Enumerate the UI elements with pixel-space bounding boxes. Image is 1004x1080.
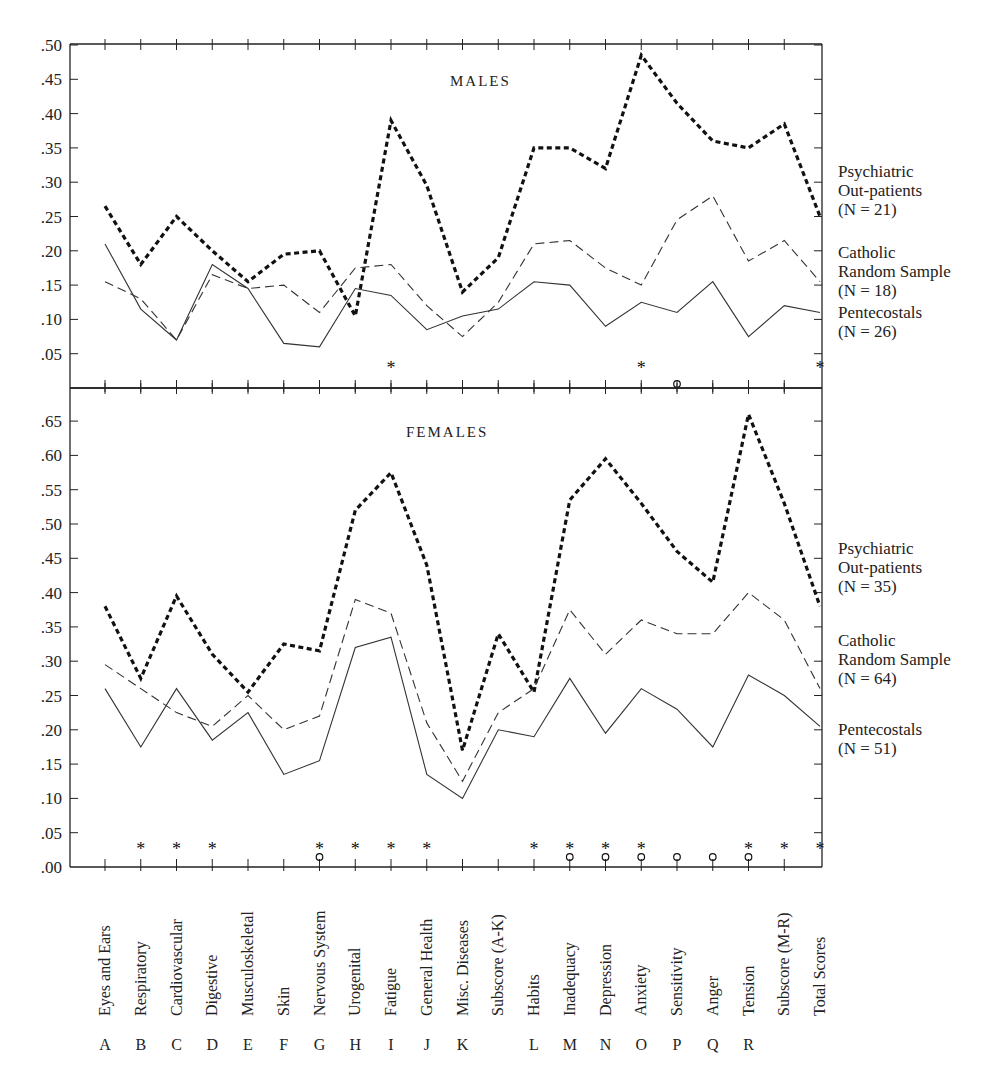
legend-n: (N = 51)	[838, 739, 897, 758]
category-label: Anger	[704, 975, 722, 1016]
significance-asterisk: *	[780, 839, 789, 859]
y-tick-label: .20	[41, 721, 62, 740]
category-letter: L	[529, 1036, 539, 1053]
category-letter: N	[600, 1036, 612, 1053]
y-tick-label: .15	[41, 755, 62, 774]
category-letter: E	[243, 1036, 253, 1053]
category-letter: C	[171, 1036, 182, 1053]
category-label: General Health	[418, 919, 435, 1016]
category-letter: O	[635, 1036, 647, 1053]
significance-asterisk: *	[816, 358, 825, 378]
category-label: Respiratory	[132, 941, 150, 1016]
series-line-psychiatric-out-patients	[105, 55, 820, 316]
category-letter: Q	[707, 1036, 719, 1053]
series-line-pentecostals	[105, 637, 820, 798]
category-letter: F	[279, 1036, 288, 1053]
significance-asterisk: *	[387, 839, 396, 859]
category-letter: G	[314, 1036, 326, 1053]
significance-asterisk: *	[136, 839, 145, 859]
category-label: Subscore (A-K)	[489, 914, 507, 1016]
legend-label: Psychiatric	[838, 162, 914, 181]
legend-label: Out-patients	[838, 558, 922, 577]
category-label: Tension	[740, 966, 757, 1016]
category-label: Sensitivity	[668, 948, 686, 1016]
significance-asterisk: *	[816, 839, 825, 859]
significance-asterisk: *	[172, 839, 181, 859]
y-tick-label: .35	[41, 139, 62, 158]
legend-label: Random Sample	[838, 650, 951, 669]
category-label: Subscore (M-R)	[775, 912, 793, 1016]
legend-entry: Pentecostals(N = 51)	[838, 720, 922, 758]
legend-n: (N = 21)	[838, 200, 897, 219]
category-letter: A	[99, 1036, 111, 1053]
significance-asterisk: *	[530, 839, 539, 859]
legend-label: Catholic	[838, 243, 896, 262]
y-tick-label: .40	[41, 584, 62, 603]
category-letter: M	[563, 1036, 577, 1053]
y-tick-label: .25	[41, 208, 62, 227]
y-tick-label: .25	[41, 687, 62, 706]
significance-asterisk: *	[422, 839, 431, 859]
category-letter: K	[457, 1036, 469, 1053]
series-line-catholic-random-sample	[105, 196, 820, 340]
significance-asterisk: *	[387, 358, 396, 378]
legend-n: (N = 18)	[838, 281, 897, 300]
y-tick-label: .05	[41, 345, 62, 364]
category-label: Digestive	[203, 955, 221, 1016]
category-label: Eyes and Ears	[96, 925, 114, 1016]
category-letter: P	[673, 1036, 682, 1053]
y-tick-label: .45	[41, 70, 62, 89]
legend-label: Pentecostals	[838, 303, 922, 322]
y-tick-label: .10	[41, 789, 62, 808]
category-label: Cardiovascular	[168, 918, 185, 1016]
y-tick-label: .30	[41, 652, 62, 671]
series-line-catholic-random-sample	[105, 593, 820, 782]
category-letter: I	[388, 1036, 393, 1053]
y-tick-label: .50	[41, 515, 62, 534]
category-label: Fatigue	[382, 968, 400, 1016]
y-tick-label: .10	[41, 310, 62, 329]
legend-label: Psychiatric	[838, 539, 914, 558]
legend-label: Pentecostals	[838, 720, 922, 739]
legend-label: Out-patients	[838, 181, 922, 200]
legend-n: (N = 35)	[838, 577, 897, 596]
y-tick-label: .50	[41, 36, 62, 55]
category-letter: J	[424, 1036, 430, 1053]
y-tick-label: .20	[41, 242, 62, 261]
legend-entry: PsychiatricOut-patients(N = 35)	[838, 539, 922, 596]
y-tick-label: .35	[41, 618, 62, 637]
y-tick-label: .15	[41, 276, 62, 295]
category-label: Anxiety	[632, 964, 650, 1016]
category-label: Urogenital	[346, 947, 364, 1016]
y-tick-label: .05	[41, 824, 62, 843]
category-label: Skin	[275, 987, 292, 1016]
significance-asterisk: *	[351, 839, 360, 859]
legend-n: (N = 26)	[838, 322, 897, 341]
y-tick-label: .00	[41, 858, 62, 877]
males-panel: .05.10.15.20.25.30.35.40.45.50MALESPsych…	[41, 36, 951, 392]
category-label: Habits	[525, 974, 542, 1016]
legend-label: Random Sample	[838, 262, 951, 281]
category-letter: R	[743, 1036, 754, 1053]
y-tick-label: .55	[41, 481, 62, 500]
category-label: Misc. Diseases	[454, 920, 471, 1016]
health-symptom-chart: .05.10.15.20.25.30.35.40.45.50MALESPsych…	[0, 0, 1004, 1080]
panel-title: FEMALES	[406, 424, 488, 440]
legend-entry: PsychiatricOut-patients(N = 21)	[838, 162, 922, 219]
category-letter: D	[206, 1036, 218, 1053]
legend-entry: Pentecostals(N = 26)	[838, 303, 922, 341]
y-tick-label: .65	[41, 412, 62, 431]
category-label: Depression	[597, 944, 615, 1016]
y-tick-label: .40	[41, 105, 62, 124]
legend-entry: CatholicRandom Sample(N = 64)	[838, 631, 951, 688]
series-line-psychiatric-out-patients	[105, 414, 820, 750]
legend-n: (N = 64)	[838, 669, 897, 688]
category-letter: B	[135, 1036, 146, 1053]
category-label: Total Scores	[811, 937, 828, 1016]
significance-asterisk: *	[637, 358, 646, 378]
y-tick-label: .30	[41, 173, 62, 192]
panel-title: MALES	[450, 73, 511, 89]
y-tick-label: .45	[41, 549, 62, 568]
category-label: Musculoskeletal	[239, 911, 256, 1016]
females-panel: .00.05.10.15.20.25.30.35.40.45.50.55.60.…	[41, 383, 951, 877]
